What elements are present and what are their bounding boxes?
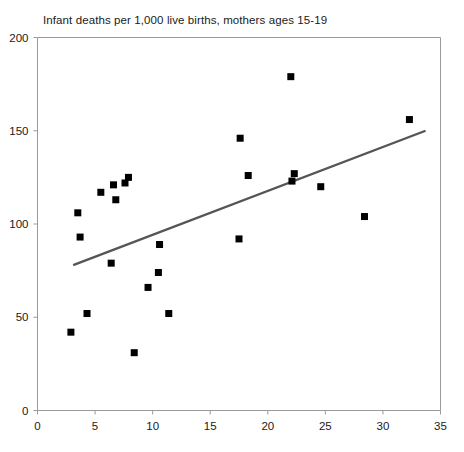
data-point-marker	[84, 310, 91, 317]
trend-line-segment	[73, 131, 425, 265]
plot-area: 050100150200 05101520253035	[0, 0, 464, 452]
data-point-marker	[406, 116, 413, 123]
data-point-marker	[156, 241, 163, 248]
data-point-marker	[74, 209, 81, 216]
data-point-marker	[131, 349, 138, 356]
data-point-marker	[155, 269, 162, 276]
data-point-marker	[112, 196, 119, 203]
data-points	[67, 73, 413, 356]
x-tick-label: 35	[434, 420, 447, 432]
y-tick-label: 200	[9, 32, 28, 44]
scatter-chart: Infant deaths per 1,000 live births, mot…	[0, 0, 464, 452]
axis-frame	[38, 38, 441, 411]
data-point-marker	[67, 329, 74, 336]
data-point-marker	[110, 181, 117, 188]
data-point-marker	[287, 73, 294, 80]
trend-line	[73, 131, 425, 265]
data-point-marker	[236, 235, 243, 242]
x-tick-label: 20	[261, 420, 274, 432]
data-point-marker	[165, 310, 172, 317]
y-axis-ticks: 050100150200	[9, 32, 37, 417]
data-point-marker	[77, 234, 84, 241]
x-axis-ticks: 05101520253035	[34, 411, 447, 432]
data-point-marker	[245, 172, 252, 179]
x-tick-label: 10	[146, 420, 159, 432]
y-tick-label: 150	[9, 125, 28, 137]
data-point-marker	[291, 170, 298, 177]
x-tick-label: 5	[92, 420, 98, 432]
y-tick-label: 100	[9, 218, 28, 230]
data-point-marker	[108, 260, 115, 267]
y-tick-label: 0	[22, 405, 28, 417]
data-point-marker	[237, 135, 244, 142]
data-point-marker	[125, 174, 132, 181]
y-tick-label: 50	[16, 311, 29, 323]
data-point-marker	[97, 189, 104, 196]
data-point-marker	[145, 284, 152, 291]
data-point-marker	[288, 178, 295, 185]
data-point-marker	[361, 213, 368, 220]
x-tick-label: 15	[204, 420, 217, 432]
chart-title: Infant deaths per 1,000 live births, mot…	[43, 14, 327, 26]
x-tick-label: 25	[319, 420, 332, 432]
data-point-marker	[317, 183, 324, 190]
x-tick-label: 0	[34, 420, 40, 432]
x-tick-label: 30	[377, 420, 390, 432]
